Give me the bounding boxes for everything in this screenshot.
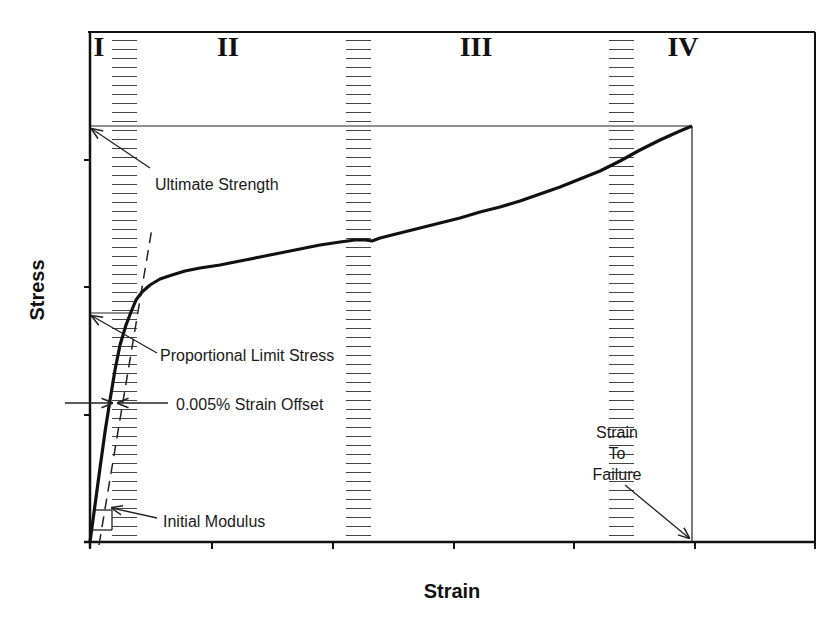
label-initial-modulus: Initial Modulus — [163, 513, 265, 530]
boundary-band-3-4 — [609, 34, 634, 541]
label-strain-offset: 0.005% Strain Offset — [176, 396, 324, 413]
region-label-ii: II — [217, 31, 239, 62]
region-label-iv: IV — [667, 31, 698, 62]
boundary-band-1-2 — [112, 34, 137, 541]
y-axis-title: Stress — [26, 259, 48, 320]
x-axis-title: Strain — [424, 580, 481, 602]
region-boundary-bands — [112, 34, 634, 541]
plot-frame — [84, 32, 815, 548]
label-failure-line3: Failure — [593, 466, 642, 483]
region-label-i: I — [94, 31, 105, 62]
label-failure-line1: Strain — [596, 424, 638, 441]
stress-strain-diagram: I II III IV Ultimate Strength Proportion… — [0, 0, 838, 625]
region-label-iii: III — [460, 31, 493, 62]
failure-arrow — [625, 485, 689, 538]
boundary-band-2-3 — [346, 34, 371, 541]
label-failure-line2: To — [609, 445, 626, 462]
label-ultimate-strength: Ultimate Strength — [155, 176, 279, 193]
label-proportional-limit: Proportional Limit Stress — [160, 347, 334, 364]
